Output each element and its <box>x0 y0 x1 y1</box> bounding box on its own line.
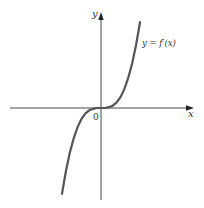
series-label-f-prime: y = f′(x) <box>141 38 176 48</box>
x-axis-label: x <box>188 108 194 119</box>
y-axis-label: y <box>91 8 98 19</box>
chart: x y 0 y = f′(x) <box>0 0 204 208</box>
origin-label: 0 <box>93 112 99 122</box>
y-axis-arrow-icon <box>98 12 103 20</box>
